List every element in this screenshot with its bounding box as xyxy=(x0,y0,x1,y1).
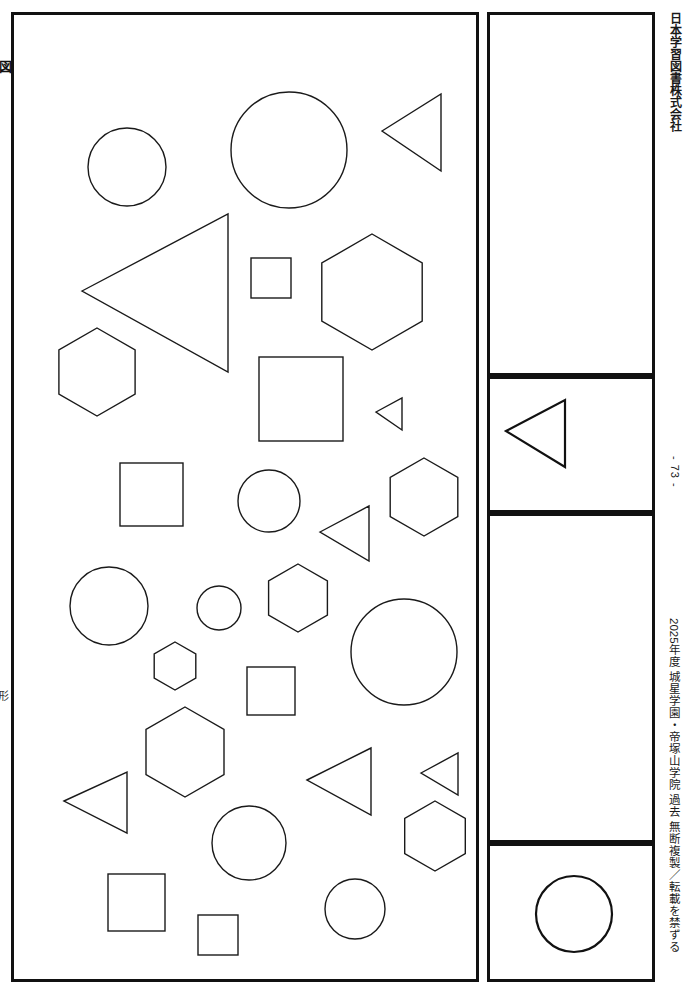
example-circle-canvas xyxy=(490,846,652,979)
square-shape-10[interactable] xyxy=(120,463,183,526)
triangle-shape-12[interactable] xyxy=(320,506,369,561)
example-triangle-canvas xyxy=(490,379,652,510)
triangle-shape-21[interactable] xyxy=(307,748,371,815)
hexagon-shape-6[interactable] xyxy=(322,234,422,350)
square-shape-26[interactable] xyxy=(108,874,165,931)
square-shape-8[interactable] xyxy=(259,357,343,441)
hexagon-shape-18[interactable] xyxy=(154,642,196,690)
triangle-shape-9[interactable] xyxy=(376,398,402,430)
circle-shape-27[interactable] xyxy=(325,879,385,939)
triangle-shape-22[interactable] xyxy=(421,753,458,795)
circle-shape-2[interactable] xyxy=(231,92,347,208)
triangle-shape-3[interactable] xyxy=(382,94,441,171)
hexagon-shape-20[interactable] xyxy=(146,707,224,797)
circle-shape-1[interactable] xyxy=(88,128,166,206)
page-number: - 73 - xyxy=(669,456,681,488)
example-circle-box xyxy=(487,843,655,982)
answer-box-middle[interactable] xyxy=(487,513,655,843)
circle-shape-24[interactable] xyxy=(212,806,286,880)
triangle-shape-example[interactable] xyxy=(506,400,565,467)
shape-field-panel xyxy=(11,12,479,982)
triangle-shape-4[interactable] xyxy=(82,214,228,372)
circle-shape-11[interactable] xyxy=(238,470,300,532)
square-shape-5[interactable] xyxy=(251,258,291,298)
answer-box-blank[interactable] xyxy=(487,12,655,376)
hexagon-shape-25[interactable] xyxy=(405,801,466,871)
copyright-notice: 2025年度 城星学園・帝塚山学院 過去 無断複製／転載を禁ずる xyxy=(666,618,682,953)
circle-shape-15[interactable] xyxy=(197,586,241,630)
hexagon-shape-16[interactable] xyxy=(269,564,328,632)
square-shape-19[interactable] xyxy=(247,667,295,715)
worksheet-page: 図 形 日本学習図書株式会社 - 73 - 2025年度 城星学園・帝塚山学院 … xyxy=(0,0,685,994)
shape-field-canvas xyxy=(14,15,476,979)
left-edge-marker-bottom: 形 xyxy=(0,690,11,701)
publisher-name: 日本学習図書株式会社 xyxy=(666,12,683,132)
circle-shape-14[interactable] xyxy=(70,567,148,645)
circle-shape-example[interactable] xyxy=(536,876,612,952)
example-triangle-box xyxy=(487,376,655,513)
hexagon-shape-13[interactable] xyxy=(390,458,458,536)
circle-shape-17[interactable] xyxy=(351,599,457,705)
hexagon-shape-7[interactable] xyxy=(59,328,135,416)
triangle-shape-23[interactable] xyxy=(64,772,127,833)
square-shape-28[interactable] xyxy=(198,915,238,955)
